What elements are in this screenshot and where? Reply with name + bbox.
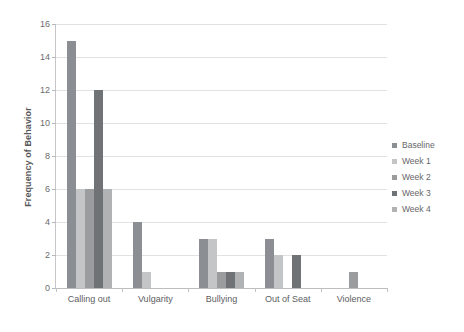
bar — [94, 90, 103, 288]
bar-set — [321, 24, 387, 288]
legend-swatch-icon — [392, 191, 397, 196]
bar-group — [56, 24, 122, 288]
bar — [103, 189, 112, 288]
legend-swatch-icon — [392, 175, 397, 180]
bar — [133, 222, 142, 288]
x-axis-tick-mark — [255, 288, 256, 292]
legend-item[interactable]: Baseline — [392, 137, 435, 153]
bar — [292, 255, 301, 288]
bar-set — [122, 24, 188, 288]
y-axis-tick-label: 4 — [45, 217, 50, 227]
bar — [235, 272, 244, 289]
bar-group — [188, 24, 254, 288]
x-axis-tick-mark — [56, 288, 57, 292]
legend-swatch-icon — [392, 143, 397, 148]
bar — [217, 272, 226, 289]
legend-item[interactable]: Week 3 — [392, 185, 435, 201]
bar-group — [122, 24, 188, 288]
bar — [349, 272, 358, 289]
x-axis-category-label: Vulgarity — [138, 294, 173, 304]
y-axis-tick-label: 6 — [45, 184, 50, 194]
x-axis-category-label: Violence — [337, 294, 371, 304]
legend-swatch-icon — [392, 159, 397, 164]
x-axis-tick-mark — [321, 288, 322, 292]
bar-chart: Frequency of Behavior 0246810121416 Call… — [0, 0, 464, 332]
y-axis-tick-label: 10 — [40, 118, 50, 128]
x-axis-tick-mark — [122, 288, 123, 292]
plot-area: 0246810121416 — [56, 24, 387, 288]
bar-group — [255, 24, 321, 288]
bar — [226, 272, 235, 289]
legend-swatch-icon — [392, 207, 397, 212]
y-axis-tick-label: 14 — [40, 52, 50, 62]
x-axis-category-label: Out of Seat — [265, 294, 311, 304]
y-axis-tick-label: 8 — [45, 151, 50, 161]
y-axis-tick-label: 0 — [45, 283, 50, 293]
x-axis-category-label: Calling out — [68, 294, 111, 304]
x-axis-tick-mark — [188, 288, 189, 292]
bar-group — [321, 24, 387, 288]
gridline — [56, 288, 387, 289]
legend-label: Baseline — [402, 140, 435, 150]
y-axis-tick-label: 16 — [40, 19, 50, 29]
legend-label: Week 2 — [402, 172, 431, 182]
x-axis-tick-mark — [387, 288, 388, 292]
bar-set — [255, 24, 321, 288]
bar — [274, 255, 283, 288]
legend-item[interactable]: Week 4 — [392, 201, 435, 217]
bar-set — [56, 24, 122, 288]
y-axis-tick-label: 2 — [45, 250, 50, 260]
bar — [265, 239, 274, 289]
legend-label: Week 1 — [402, 156, 431, 166]
legend-item[interactable]: Week 1 — [392, 153, 435, 169]
bar — [67, 41, 76, 289]
legend-item[interactable]: Week 2 — [392, 169, 435, 185]
bar — [208, 239, 217, 289]
legend: BaselineWeek 1Week 2Week 3Week 4 — [392, 137, 435, 217]
bar — [76, 189, 85, 288]
bar — [142, 272, 151, 289]
y-axis-tick-label: 12 — [40, 85, 50, 95]
bar — [199, 239, 208, 289]
legend-label: Week 3 — [402, 188, 431, 198]
y-axis-title: Frequency of Behavior — [23, 67, 33, 247]
x-axis-category-label: Bullying — [206, 294, 238, 304]
legend-label: Week 4 — [402, 204, 431, 214]
bar-set — [188, 24, 254, 288]
bar — [85, 189, 94, 288]
